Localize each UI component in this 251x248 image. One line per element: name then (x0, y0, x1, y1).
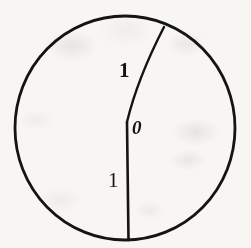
geometry-figure: 1 0 1 (0, 0, 251, 248)
vertex-label: 0 (132, 118, 142, 137)
upper-slanted-segment (127, 27, 164, 122)
lower-arc-label: 1 (108, 170, 119, 191)
upper-arc-label: 1 (119, 60, 130, 81)
figure-drawing (0, 0, 251, 248)
circle-outline (15, 16, 235, 240)
lower-vertical-segment (127, 122, 129, 240)
